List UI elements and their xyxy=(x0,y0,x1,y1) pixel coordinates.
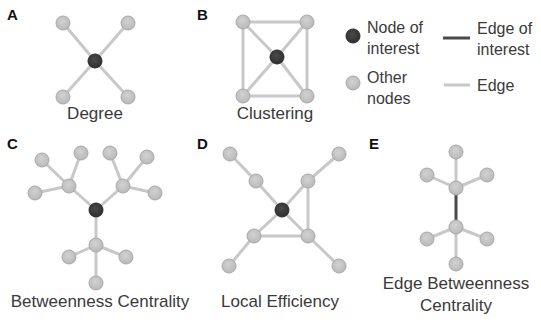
other-node xyxy=(223,147,237,161)
other-node xyxy=(301,174,315,188)
other-node xyxy=(420,232,434,246)
legend-node-of-interest-line2: interest xyxy=(367,38,423,59)
other-node xyxy=(89,276,103,290)
other-node xyxy=(449,181,463,195)
legend-other-node-icon xyxy=(346,76,360,90)
other-node xyxy=(56,90,70,104)
other-node xyxy=(236,15,250,29)
other-node xyxy=(56,16,70,30)
other-node xyxy=(449,220,463,234)
other-node xyxy=(236,89,250,103)
other-node xyxy=(480,168,494,182)
other-node xyxy=(300,15,314,29)
caption-edge-betweenness-line2: Centrality xyxy=(376,296,536,316)
legend-edge-of-interest-line1: Edge of xyxy=(477,18,532,39)
other-node xyxy=(121,90,135,104)
panel-letter-a: A xyxy=(7,6,18,23)
panel-letter-b: B xyxy=(197,6,208,23)
legend-other-nodes-line1: Other xyxy=(367,67,411,88)
other-node xyxy=(449,257,463,271)
other-node xyxy=(121,16,135,30)
other-node xyxy=(300,89,314,103)
node-of-interest xyxy=(270,50,284,64)
other-node xyxy=(249,174,263,188)
other-node xyxy=(148,186,162,200)
other-node xyxy=(62,179,76,193)
panel-letter-c: C xyxy=(7,135,18,152)
other-node xyxy=(28,186,42,200)
legend-node-of-interest-icon xyxy=(346,29,360,43)
other-node xyxy=(116,179,130,193)
other-node xyxy=(480,232,494,246)
other-node xyxy=(332,147,346,161)
legend-other-nodes-label: Other nodes xyxy=(367,67,411,109)
other-node xyxy=(35,153,49,167)
node-of-interest xyxy=(88,54,102,68)
other-node xyxy=(140,150,154,164)
other-node xyxy=(62,250,76,264)
panel-letter-d: D xyxy=(197,135,208,152)
panel-letter-e: E xyxy=(369,135,379,152)
other-node xyxy=(89,238,103,252)
legend-edge-of-interest-label: Edge of interest xyxy=(477,18,532,60)
legend-other-nodes-line2: nodes xyxy=(367,88,411,109)
caption-local-efficiency: Local Efficiency xyxy=(210,292,350,312)
other-node xyxy=(420,168,434,182)
other-node xyxy=(332,259,346,273)
legend-node-of-interest-line1: Node of xyxy=(367,17,423,38)
caption-degree: Degree xyxy=(45,104,145,124)
panel-c-betweenness-graph xyxy=(35,153,155,283)
caption-betweenness-centrality: Betweenness Centrality xyxy=(0,292,200,312)
other-node xyxy=(119,250,133,264)
other-node xyxy=(222,259,236,273)
other-node xyxy=(301,229,315,243)
other-node xyxy=(74,146,88,160)
other-node xyxy=(247,229,261,243)
legend-edge-label: Edge xyxy=(477,75,514,96)
other-node xyxy=(103,146,117,160)
legend-edge-of-interest-line2: interest xyxy=(477,39,532,60)
caption-edge-betweenness-line1: Edge Betweenness xyxy=(376,274,536,294)
legend-node-of-interest-label: Node of interest xyxy=(367,17,423,59)
other-node xyxy=(449,145,463,159)
caption-clustering: Clustering xyxy=(225,104,325,124)
node-of-interest xyxy=(275,203,289,217)
node-of-interest xyxy=(89,203,103,217)
